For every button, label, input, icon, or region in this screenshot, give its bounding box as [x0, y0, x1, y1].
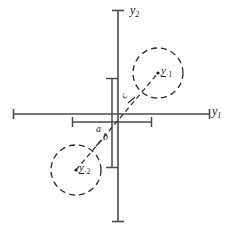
y1-axis-label-subscript: 1: [217, 111, 221, 120]
figure-canvas: y2 y1 y·1 y·2 a b c: [0, 0, 231, 231]
dimension-a-label: a: [96, 124, 101, 134]
group-1-mean-label-subscript: ·1: [166, 70, 172, 79]
group-1-mean-label: y·1: [161, 65, 172, 79]
group-2-mean-label-subscript: ·2: [84, 167, 90, 176]
y1-axis-label: y1: [212, 105, 221, 120]
y2-axis-label-subscript: 2: [135, 10, 139, 19]
coordinate-diagram: [0, 0, 231, 231]
y2-axis-label: y2: [130, 4, 139, 19]
group-2-mean-label: y·2: [79, 162, 90, 176]
connector-tick-lower: [96, 140, 102, 146]
group-2-center-dot: [74, 168, 77, 171]
dimension-b-label: b: [103, 132, 108, 142]
group-1-center-dot: [156, 71, 159, 74]
